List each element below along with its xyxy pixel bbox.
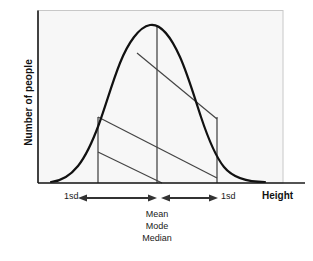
center-stat-mode: Mode	[117, 220, 197, 232]
center-stat-mean: Mean	[117, 208, 197, 220]
center-stats-group: Mean Mode Median	[117, 208, 197, 244]
sd-arrow-right	[161, 194, 218, 201]
y-axis-label: Number of people	[23, 28, 34, 178]
sd-label-right: 1sd	[221, 191, 236, 201]
center-stat-median: Median	[117, 232, 197, 244]
sd-label-left: 1sd	[64, 191, 79, 201]
x-axis-label: Height	[262, 190, 293, 201]
sd-arrow-left	[78, 194, 157, 201]
bell-curve-figure: Number of people Height 1sd 1sd Mean Mod…	[0, 0, 313, 261]
plot-area-background	[38, 11, 283, 184]
